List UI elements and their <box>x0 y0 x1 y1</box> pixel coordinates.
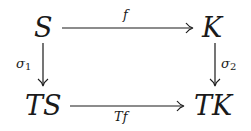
label-sigma2: σ2 <box>221 57 236 73</box>
arrow-f <box>62 23 193 33</box>
node-tk: TK <box>194 92 232 119</box>
node-ts: TS <box>25 92 62 119</box>
label-sigma1: σ1 <box>16 57 31 73</box>
arrow-sigma2 <box>210 43 220 86</box>
arrow-sigma1 <box>38 43 48 86</box>
node-k: K <box>202 14 222 41</box>
label-tf: Tf <box>114 110 127 123</box>
node-s: S <box>34 14 53 41</box>
label-f: f <box>123 8 128 21</box>
